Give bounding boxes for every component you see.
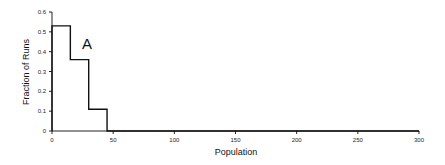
x-tick-label: 150: [230, 137, 241, 143]
plot-area: [52, 26, 419, 131]
y-tick-label: 0: [43, 128, 47, 134]
x-tick-label: 50: [110, 137, 117, 143]
x-tick-label: 100: [169, 137, 180, 143]
x-tick-label: 250: [353, 137, 364, 143]
x-tick-label: 0: [50, 137, 54, 143]
y-tick-label: 0.5: [38, 29, 47, 35]
y-tick-label: 0.2: [38, 88, 47, 94]
y-tick-label: 0.3: [38, 69, 47, 75]
x-tick-label: 200: [292, 137, 303, 143]
y-tick-label: 0.4: [38, 49, 47, 55]
y-tick-label: 0.1: [38, 108, 47, 114]
x-axis-label: Population: [215, 147, 258, 157]
step-series-line: [52, 26, 419, 131]
y-axis-label: Fraction of Runs: [21, 38, 31, 105]
axes: 00.10.20.30.40.50.6050100150200250300: [38, 9, 425, 143]
y-tick-label: 0.6: [38, 9, 47, 15]
panel-label: A: [82, 35, 92, 52]
x-tick-label: 300: [414, 137, 425, 143]
step-chart: 00.10.20.30.40.50.6050100150200250300 Fr…: [0, 0, 445, 165]
